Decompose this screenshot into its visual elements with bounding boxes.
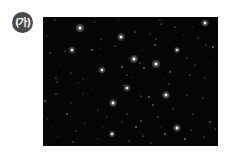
star bbox=[176, 127, 178, 129]
star bbox=[93, 89, 94, 90]
star bbox=[149, 33, 150, 34]
star bbox=[169, 71, 170, 72]
star bbox=[155, 38, 156, 39]
figure-label-badge: (가) bbox=[12, 12, 33, 33]
star bbox=[204, 22, 206, 24]
star bbox=[71, 103, 72, 104]
star bbox=[108, 59, 109, 60]
star bbox=[204, 77, 205, 78]
star bbox=[143, 50, 144, 51]
star bbox=[126, 74, 127, 75]
star bbox=[120, 36, 122, 38]
star bbox=[155, 63, 158, 66]
star bbox=[210, 63, 211, 64]
star bbox=[140, 95, 141, 96]
star bbox=[174, 26, 175, 27]
star bbox=[194, 64, 195, 65]
star bbox=[78, 83, 79, 84]
star bbox=[112, 102, 114, 104]
star bbox=[183, 35, 184, 36]
star bbox=[83, 94, 84, 95]
star bbox=[95, 22, 96, 23]
star bbox=[121, 66, 123, 68]
star bbox=[51, 127, 52, 128]
star bbox=[168, 83, 169, 84]
star bbox=[123, 84, 124, 85]
star bbox=[186, 94, 187, 95]
star bbox=[128, 140, 129, 141]
star bbox=[61, 65, 62, 66]
star bbox=[134, 31, 135, 32]
star bbox=[126, 87, 128, 89]
star bbox=[58, 136, 59, 137]
star-field-graphic bbox=[43, 17, 218, 146]
star bbox=[106, 116, 107, 117]
star bbox=[143, 67, 144, 68]
star bbox=[154, 44, 155, 45]
star bbox=[190, 129, 191, 130]
star bbox=[100, 48, 101, 49]
star bbox=[165, 94, 167, 96]
star bbox=[184, 138, 185, 139]
star bbox=[79, 27, 82, 30]
star bbox=[88, 65, 89, 66]
star bbox=[75, 130, 76, 131]
star bbox=[205, 44, 206, 45]
star bbox=[126, 113, 127, 114]
star bbox=[133, 77, 134, 78]
star bbox=[49, 52, 50, 53]
star bbox=[209, 121, 210, 122]
star bbox=[70, 72, 71, 73]
star bbox=[66, 113, 67, 114]
star bbox=[152, 104, 153, 105]
star bbox=[212, 46, 214, 48]
star bbox=[54, 19, 55, 20]
star bbox=[97, 109, 98, 110]
star bbox=[159, 19, 160, 20]
stars bbox=[44, 19, 215, 144]
star bbox=[157, 116, 158, 117]
star bbox=[98, 139, 99, 140]
star-field-image bbox=[43, 17, 218, 146]
star bbox=[150, 142, 151, 143]
star bbox=[103, 127, 104, 128]
star bbox=[142, 135, 143, 136]
star bbox=[198, 107, 199, 108]
star bbox=[109, 32, 110, 33]
star bbox=[100, 38, 101, 39]
star bbox=[193, 27, 194, 28]
star bbox=[161, 127, 162, 128]
star bbox=[55, 77, 56, 78]
star bbox=[203, 136, 204, 137]
star bbox=[83, 79, 84, 80]
star bbox=[91, 49, 92, 50]
star bbox=[133, 58, 136, 61]
star bbox=[101, 69, 103, 71]
star bbox=[47, 119, 48, 120]
star bbox=[189, 74, 190, 75]
star bbox=[140, 120, 141, 121]
star bbox=[71, 49, 73, 51]
star bbox=[176, 49, 178, 51]
star bbox=[72, 141, 73, 142]
star bbox=[68, 27, 69, 28]
star bbox=[56, 81, 57, 82]
star bbox=[64, 50, 65, 51]
star bbox=[139, 62, 140, 63]
star bbox=[118, 20, 119, 21]
star bbox=[197, 37, 198, 38]
star bbox=[55, 93, 56, 94]
star bbox=[202, 97, 203, 98]
star bbox=[148, 96, 149, 97]
star bbox=[163, 79, 164, 80]
star bbox=[214, 128, 215, 129]
star bbox=[164, 133, 166, 135]
star bbox=[114, 45, 115, 46]
star bbox=[135, 126, 136, 127]
star bbox=[128, 58, 129, 59]
star bbox=[46, 35, 47, 36]
star bbox=[186, 57, 187, 58]
star bbox=[44, 100, 45, 101]
star bbox=[121, 121, 122, 122]
star bbox=[111, 133, 113, 135]
